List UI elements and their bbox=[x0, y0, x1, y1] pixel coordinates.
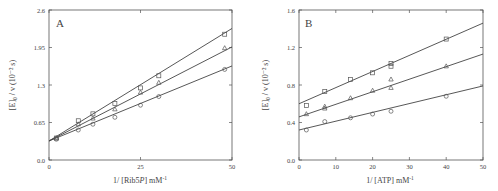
x-tick-label: 50 bbox=[229, 163, 236, 170]
y-tick-label: 0.0 bbox=[37, 157, 45, 164]
x-tick-label: 10 bbox=[333, 163, 340, 170]
panel-b-chart: 0.00.40.81.21.6 01020304050 B [E]₀ / v (… bbox=[261, 7, 486, 186]
panel-a-label: A bbox=[56, 17, 64, 29]
panel-a-data-points bbox=[54, 32, 227, 141]
x-tick-label: 0 bbox=[47, 163, 50, 170]
data-point-circle bbox=[113, 115, 117, 119]
panel-a-x-axis-label: 1/ [Rib5P] mM-1 bbox=[113, 175, 167, 185]
data-point-square bbox=[304, 104, 308, 108]
panel-a-y-axis-label: [E]₀ / v (10⁻² s) bbox=[8, 60, 17, 111]
x-tick-label: 30 bbox=[406, 163, 413, 170]
panel-b-x-axis-label: 1/ [ATP] mM-1 bbox=[366, 175, 414, 185]
y-tick-label: 1.3 bbox=[37, 82, 45, 89]
fit-line-squares bbox=[49, 28, 232, 140]
x-tick-label: 0 bbox=[297, 163, 300, 170]
data-point-circle bbox=[389, 109, 393, 113]
x-tick-label: 20 bbox=[369, 163, 376, 170]
data-point-square bbox=[113, 101, 117, 105]
panel-b-data-points bbox=[304, 37, 448, 132]
data-point-triangle bbox=[389, 77, 393, 81]
x-tick-label: 40 bbox=[443, 163, 450, 170]
data-point-square bbox=[139, 86, 143, 90]
data-point-triangle bbox=[222, 46, 226, 50]
x-tick-label: 25 bbox=[137, 163, 144, 170]
chart-figure: 0.00.651.31.952.6 02550 A [E]₀ / v (10⁻²… bbox=[0, 0, 498, 191]
data-point-square bbox=[389, 64, 393, 68]
y-tick-label: 0.8 bbox=[287, 82, 295, 89]
y-tick-label: 0.65 bbox=[34, 119, 45, 126]
data-point-circle bbox=[323, 120, 327, 124]
y-tick-label: 1.2 bbox=[287, 44, 295, 51]
y-tick-label: 1.95 bbox=[34, 44, 45, 51]
y-tick-label: 2.6 bbox=[37, 7, 46, 14]
panel-a-y-ticks: 0.00.651.31.952.6 bbox=[34, 7, 232, 164]
y-tick-label: 0.4 bbox=[287, 119, 296, 126]
panel-a-fit-lines bbox=[49, 28, 232, 140]
panel-b-y-axis-label: [E]₀ / v (10⁻² s) bbox=[261, 60, 270, 111]
y-tick-label: 1.6 bbox=[287, 7, 296, 14]
data-point-triangle bbox=[157, 80, 161, 84]
panel-b-label: B bbox=[305, 17, 312, 29]
panel-a-chart: 0.00.651.31.952.6 02550 A [E]₀ / v (10⁻²… bbox=[8, 7, 235, 186]
x-tick-label: 50 bbox=[480, 163, 487, 170]
panel-b-y-ticks: 0.00.40.81.21.6 bbox=[287, 7, 483, 164]
y-tick-label: 0.0 bbox=[287, 157, 295, 164]
